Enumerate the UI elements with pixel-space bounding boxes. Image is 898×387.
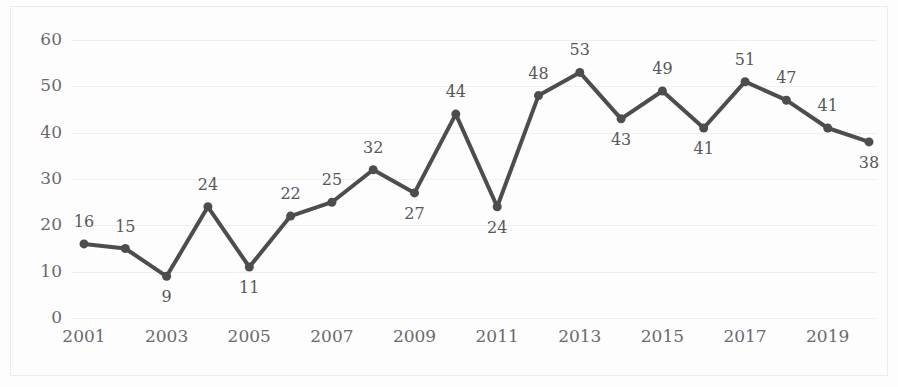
data-point-label: 44 <box>431 84 481 100</box>
data-point-label: 43 <box>596 132 646 148</box>
data-point-marker <box>865 137 874 146</box>
data-point-label: 27 <box>390 206 440 222</box>
data-point-marker <box>286 212 295 221</box>
plot-area: 0102030405060 20012003200520072009201120… <box>0 0 898 387</box>
data-point-marker <box>699 124 708 133</box>
data-point-marker <box>410 188 419 197</box>
data-point-marker <box>162 272 171 281</box>
data-point-marker <box>823 124 832 133</box>
data-point-marker <box>575 68 584 77</box>
chart-container: 0102030405060 20012003200520072009201120… <box>0 0 898 387</box>
data-point-marker <box>80 239 89 248</box>
data-point-marker <box>741 77 750 86</box>
data-point-label: 24 <box>183 177 233 193</box>
data-point-marker <box>327 198 336 207</box>
data-point-label: 22 <box>266 186 316 202</box>
data-point-label: 25 <box>307 172 357 188</box>
data-point-label: 9 <box>142 289 192 305</box>
data-point-label: 38 <box>844 155 894 171</box>
data-point-marker <box>617 114 626 123</box>
data-point-marker <box>203 202 212 211</box>
data-point-label: 51 <box>720 52 770 68</box>
data-point-marker <box>121 244 130 253</box>
data-point-label: 11 <box>224 280 274 296</box>
data-point-label: 49 <box>637 61 687 77</box>
data-point-marker <box>534 91 543 100</box>
data-point-label: 15 <box>100 219 150 235</box>
data-point-marker <box>245 263 254 272</box>
data-point-marker <box>493 202 502 211</box>
data-point-marker <box>658 87 667 96</box>
data-point-label: 24 <box>472 220 522 236</box>
data-point-label: 32 <box>348 140 398 156</box>
data-point-label: 48 <box>513 66 563 82</box>
data-point-marker <box>451 110 460 119</box>
data-point-label: 41 <box>803 98 853 114</box>
data-point-label: 47 <box>761 70 811 86</box>
data-point-label: 53 <box>555 42 605 58</box>
data-point-marker <box>369 165 378 174</box>
data-point-label: 41 <box>679 141 729 157</box>
data-point-marker <box>782 96 791 105</box>
